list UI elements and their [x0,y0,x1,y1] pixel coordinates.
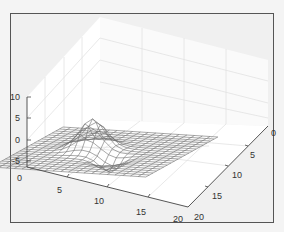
x-tick-5: 5 [57,185,62,195]
x-tick-15: 15 [136,207,146,217]
y-tick-15: 15 [212,191,222,201]
y-tick-0: 0 [271,128,276,138]
y-tick-20: 20 [194,212,204,222]
z-tick-5: 5 [15,113,20,123]
y-tick-10: 10 [232,170,242,180]
y-tick-5: 5 [250,150,255,160]
x-tick-10: 10 [94,196,104,206]
z-tick-neg5: -5 [12,156,20,166]
z-tick-0: 0 [15,135,20,145]
x-tick-0: 0 [17,173,22,183]
x-tick-20: 20 [173,214,183,224]
mesh-plot: 10 5 0 -5 0 5 10 15 20 0 5 10 15 20 [0,0,284,232]
z-tick-10: 10 [10,92,20,102]
